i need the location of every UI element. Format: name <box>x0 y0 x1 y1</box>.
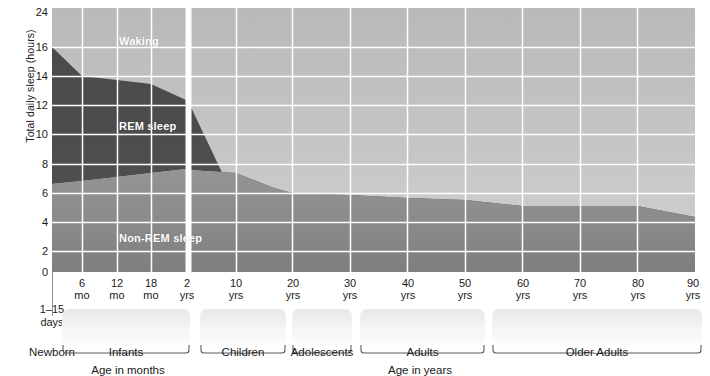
x-tick-unit: yrs <box>271 289 315 301</box>
y-tick-16: 16 <box>14 42 48 53</box>
x-tick-unit: yrs <box>443 289 487 301</box>
x-tick-value: 30 <box>344 277 356 289</box>
plot-area: Waking REM sleep Non-REM sleep <box>52 8 695 272</box>
group-band-adolescents <box>292 309 352 345</box>
x-tick-2yrs: 2 yrs <box>165 277 209 301</box>
x-tick-unit: yrs <box>214 289 258 301</box>
x-tick-70yrs: 70 yrs <box>558 277 602 301</box>
sleep-lifespan-chart: Total daily sleep (hours) 24 16 14 12 10… <box>0 0 710 376</box>
x-tick-unit: yrs <box>558 289 602 301</box>
x-tick-50yrs: 50 yrs <box>443 277 487 301</box>
rem-sleep-label: REM sleep <box>119 120 176 132</box>
x-tick-value: 6 <box>79 277 85 289</box>
x-tick-unit: yrs <box>328 289 372 301</box>
y-tick-0: 0 <box>14 267 48 278</box>
y-tick-24: 24 <box>14 7 48 18</box>
x-tick-20yrs: 20 yrs <box>271 277 315 301</box>
x-tick-unit: yrs <box>386 289 430 301</box>
group-name-infants: Infants <box>62 346 190 358</box>
x-tick-90yrs: 90 yrs <box>671 277 710 301</box>
x-axis-title-months: Age in months <box>58 364 198 376</box>
waking-label: Waking <box>119 35 159 47</box>
group-band-infants <box>62 309 190 345</box>
x-tick-unit: yrs <box>501 289 545 301</box>
x-tick-value: 50 <box>459 277 471 289</box>
x-tick-value: 60 <box>517 277 529 289</box>
group-name-children: Children <box>198 346 288 358</box>
x-tick-40yrs: 40 yrs <box>386 277 430 301</box>
x-tick-value: 90 <box>687 277 699 289</box>
group-name-older-adults: Older Adults <box>492 346 702 358</box>
x-axis-title-years: Age in years <box>330 364 510 376</box>
x-tick-10yrs: 10 yrs <box>214 277 258 301</box>
group-name-adolescents: Adolescents <box>285 346 359 358</box>
x-tick-value: 18 <box>145 277 157 289</box>
x-tick-value: 12 <box>111 277 123 289</box>
x-tick-60yrs: 60 yrs <box>501 277 545 301</box>
group-name-adults: Adults <box>360 346 485 358</box>
y-tick-10: 10 <box>14 129 48 140</box>
x-tick-80yrs: 80 yrs <box>616 277 660 301</box>
x-tick-value: 70 <box>574 277 586 289</box>
x-tick-unit: yrs <box>616 289 660 301</box>
x-tick-value: 20 <box>287 277 299 289</box>
x-tick-30yrs: 30 yrs <box>328 277 372 301</box>
y-tick-4: 4 <box>14 217 48 228</box>
x-tick-value: 40 <box>402 277 414 289</box>
non-rem-sleep-label: Non-REM sleep <box>119 232 202 244</box>
y-tick-2: 2 <box>14 246 48 257</box>
y-tick-8: 8 <box>14 159 48 170</box>
y-tick-14: 14 <box>14 71 48 82</box>
y-tick-12: 12 <box>14 100 48 111</box>
x-tick-value: 10 <box>230 277 242 289</box>
group-band-children <box>200 309 286 345</box>
y-tick-6: 6 <box>14 188 48 199</box>
group-band-older-adults <box>492 309 702 345</box>
newborn-range-value: 1–15 <box>40 303 64 315</box>
x-tick-unit: yrs <box>671 289 710 301</box>
group-band-adults <box>360 309 485 345</box>
x-tick-unit: yrs <box>165 289 209 301</box>
x-tick-value: 80 <box>632 277 644 289</box>
x-tick-value: 2 <box>184 277 190 289</box>
